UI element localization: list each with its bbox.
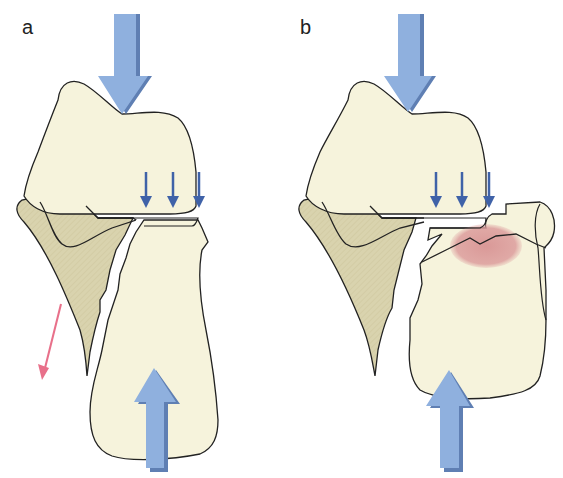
bone-contusion-zone bbox=[450, 224, 522, 268]
talus-a bbox=[24, 81, 196, 214]
panel-label-b: b bbox=[300, 16, 311, 39]
panel-b bbox=[299, 14, 555, 472]
figure-canvas bbox=[0, 0, 563, 478]
axial-load-arrow-top-a bbox=[98, 14, 152, 114]
displacement-arrow-a bbox=[38, 304, 61, 380]
talus-b bbox=[306, 81, 486, 214]
fibula-b bbox=[299, 196, 416, 376]
panel-label-a: a bbox=[22, 16, 33, 39]
panel-a bbox=[17, 14, 218, 472]
